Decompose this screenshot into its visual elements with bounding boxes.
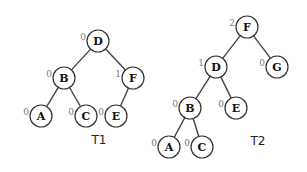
tree-edge — [193, 119, 199, 137]
tree-node-b: B0 — [46, 67, 75, 89]
tree-edge — [223, 36, 241, 59]
tree-edge — [196, 76, 210, 98]
balance-factor: 1 — [198, 58, 204, 68]
tree-edge — [174, 118, 185, 138]
node-label: F — [129, 72, 137, 85]
tree-edge — [106, 49, 126, 70]
tree-node-f: F1 — [115, 67, 144, 89]
node-label: D — [93, 35, 103, 48]
balance-factor: 1 — [115, 69, 121, 79]
balance-factor: 2 — [229, 18, 235, 28]
tree-node-f: F2 — [229, 16, 258, 38]
balance-factor: 0 — [23, 107, 29, 117]
balance-factor: 0 — [172, 99, 178, 109]
node-label: E — [112, 110, 120, 123]
tree-node-d: D0 — [80, 30, 109, 52]
balance-factor: 0 — [68, 107, 74, 117]
balance-factor: 0 — [218, 99, 224, 109]
tree-node-c: C0 — [68, 105, 97, 127]
node-label: G — [272, 61, 281, 74]
tree-node-e: E0 — [98, 105, 127, 127]
tree-node-a: A0 — [23, 105, 52, 127]
node-label: F — [243, 21, 251, 34]
tree-name-label: T2 — [250, 134, 266, 148]
balance-factor: 0 — [80, 32, 86, 42]
node-label: C — [198, 141, 207, 154]
node-label: B — [185, 102, 194, 115]
tree-node-e: E0 — [218, 97, 247, 119]
balance-factor: 0 — [184, 138, 190, 148]
balance-factor: 0 — [151, 138, 157, 148]
tree-node-c: C0 — [184, 136, 213, 158]
tree-name-label: T1 — [91, 133, 107, 147]
tree-node-a: A0 — [151, 136, 180, 158]
balance-factor: 0 — [46, 69, 52, 79]
tree-node-g: G0 — [259, 56, 288, 78]
balance-factor: 0 — [98, 107, 104, 117]
tree-edge — [71, 49, 90, 70]
nodes-layer: D0B0F1A0C0E0F2D1G0B0E0A0C0 — [23, 16, 288, 158]
tree-edge — [47, 87, 59, 106]
tree-node-d: D1 — [198, 56, 227, 78]
tree-edge — [221, 77, 231, 98]
tree-edge — [70, 88, 81, 107]
balance-factor: 0 — [259, 58, 265, 68]
tree-edge — [254, 36, 271, 58]
node-label: C — [82, 110, 91, 123]
tree-edge — [120, 88, 128, 106]
node-label: A — [36, 110, 46, 123]
tree-node-b: B0 — [172, 97, 201, 119]
node-label: A — [164, 141, 174, 154]
node-label: B — [59, 72, 68, 85]
node-label: D — [211, 61, 221, 74]
node-label: E — [232, 102, 240, 115]
tree-diagram: D0B0F1A0C0E0F2D1G0B0E0A0C0 T1T2 — [0, 0, 307, 172]
